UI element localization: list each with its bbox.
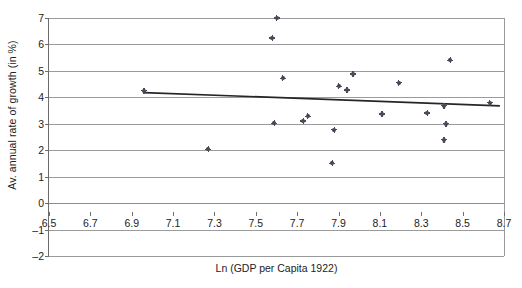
gridline bbox=[49, 230, 504, 231]
gridline bbox=[49, 150, 504, 151]
y-tick-mark bbox=[45, 256, 49, 257]
data-point bbox=[270, 36, 274, 40]
x-tick-label: 6.5 bbox=[42, 217, 57, 229]
scatter-chart-figure: Av. annual rate of growth (in %) 7654321… bbox=[0, 0, 522, 288]
x-tick-label: 7.3 bbox=[207, 217, 222, 229]
y-tick-mark bbox=[45, 44, 49, 45]
x-tick-mark bbox=[297, 212, 298, 216]
y-tick-mark bbox=[45, 150, 49, 151]
x-tick-label: 7.9 bbox=[331, 217, 346, 229]
y-tick-label: 1 bbox=[38, 171, 44, 183]
y-tick-mark bbox=[45, 71, 49, 72]
y-tick-mark bbox=[45, 177, 49, 178]
data-point bbox=[397, 81, 401, 85]
y-tick-mark bbox=[45, 124, 49, 125]
gridline bbox=[49, 97, 504, 98]
data-point bbox=[301, 119, 305, 123]
x-tick-label: 6.9 bbox=[124, 217, 139, 229]
x-tick-mark bbox=[49, 212, 50, 216]
gridline bbox=[49, 256, 504, 257]
x-tick-mark bbox=[380, 212, 381, 216]
gridline bbox=[49, 71, 504, 72]
x-axis-title: Ln (GDP per Capita 1922) bbox=[49, 262, 504, 274]
data-point bbox=[380, 112, 384, 116]
x-tick-label: 8.5 bbox=[455, 217, 470, 229]
gridline bbox=[49, 44, 504, 45]
y-tick-label: 7 bbox=[38, 12, 44, 24]
x-tick-label: 8.1 bbox=[373, 217, 388, 229]
x-tick-mark bbox=[421, 212, 422, 216]
y-tick-mark bbox=[45, 97, 49, 98]
data-point bbox=[442, 104, 446, 108]
data-point bbox=[444, 122, 448, 126]
x-tick-label: 7.7 bbox=[290, 217, 305, 229]
data-point bbox=[345, 88, 349, 92]
data-point bbox=[142, 89, 146, 93]
data-point bbox=[275, 16, 279, 20]
x-tick-label: 8.7 bbox=[497, 217, 512, 229]
y-axis-title: Av. annual rate of growth (in %) bbox=[0, 0, 24, 230]
x-tick-mark bbox=[214, 212, 215, 216]
data-point bbox=[337, 84, 341, 88]
trendline bbox=[144, 93, 500, 106]
x-tick-mark bbox=[463, 212, 464, 216]
x-tick-mark bbox=[132, 212, 133, 216]
y-tick-label: –2 bbox=[32, 250, 44, 262]
gridline bbox=[49, 203, 504, 204]
data-point bbox=[330, 161, 334, 165]
y-tick-mark bbox=[45, 230, 49, 231]
data-point bbox=[306, 114, 310, 118]
y-tick-label: 0 bbox=[38, 197, 44, 209]
y-tick-label: 3 bbox=[38, 118, 44, 130]
y-tick-label: 5 bbox=[38, 65, 44, 77]
y-tick-label: 2 bbox=[38, 144, 44, 156]
y-tick-label: 6 bbox=[38, 38, 44, 50]
x-tick-label: 8.3 bbox=[414, 217, 429, 229]
data-point bbox=[425, 111, 429, 115]
data-point bbox=[332, 128, 336, 132]
data-point bbox=[448, 58, 452, 62]
x-tick-mark bbox=[90, 212, 91, 216]
data-point bbox=[351, 72, 355, 76]
x-tick-mark bbox=[256, 212, 257, 216]
x-tick-mark bbox=[504, 212, 505, 216]
y-tick-label: 4 bbox=[38, 91, 44, 103]
x-tick-mark bbox=[339, 212, 340, 216]
y-axis-title-text: Av. annual rate of growth (in %) bbox=[6, 40, 18, 189]
x-tick-label: 6.7 bbox=[83, 217, 98, 229]
plot-area: 76543210–1–2 6.56.76.97.17.37.57.77.98.1… bbox=[49, 18, 504, 256]
data-point bbox=[442, 138, 446, 142]
gridline bbox=[49, 177, 504, 178]
y-tick-mark bbox=[45, 203, 49, 204]
y-tick-mark bbox=[45, 18, 49, 19]
x-tick-label: 7.1 bbox=[166, 217, 181, 229]
data-point bbox=[281, 76, 285, 80]
data-point bbox=[488, 101, 492, 105]
x-tick-mark bbox=[173, 212, 174, 216]
trendline-group bbox=[49, 18, 504, 256]
x-tick-label: 7.5 bbox=[249, 217, 264, 229]
